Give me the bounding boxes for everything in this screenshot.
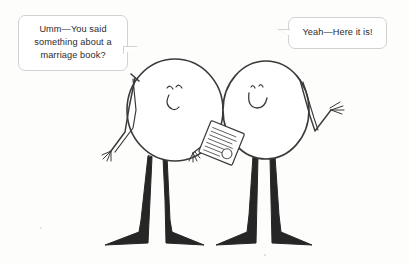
left-figure-leg-right [163,156,204,245]
left-figure-left-hand [102,151,111,161]
speck-b [264,254,266,256]
right-figure-leg-right [270,156,312,245]
left-speech-bubble: Umm—You said something about a marriage … [18,15,128,71]
right-figure-leg-left [216,156,258,245]
right-speech-bubble-text: Yeah—Here it is! [294,26,381,39]
speck-a [40,227,41,228]
left-speech-bubble-text: Umm—You said something about a marriage … [24,23,122,62]
left-figure-leg-left [105,156,152,245]
right-figure-right-hand [330,102,344,114]
right-speech-bubble: Yeah—Here it is! [288,17,387,49]
comic-scene: Umm—You said something about a marriage … [0,0,409,264]
